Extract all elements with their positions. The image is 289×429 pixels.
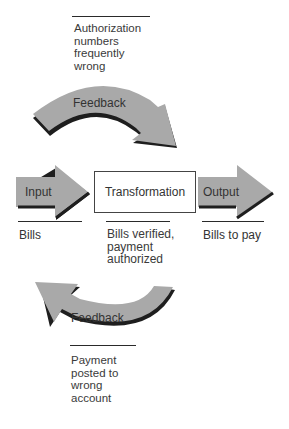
process-diagram-graphics (0, 0, 289, 429)
input-caption: Bills (19, 228, 41, 242)
output-label: Output (203, 185, 239, 199)
top-note-rule (72, 16, 150, 17)
bottom-note-rule (70, 345, 136, 346)
input-caption-rule (18, 221, 82, 222)
output-caption: Bills to pay (203, 228, 261, 242)
transformation-caption-rule (106, 221, 170, 222)
top-feedback-label: Feedback (73, 96, 126, 110)
top-feedback-note: Authorization numbers frequently wrong (74, 22, 141, 72)
bottom-feedback-note: Payment posted to wrong account (71, 354, 118, 404)
output-caption-rule (202, 221, 264, 222)
bottom-feedback-label: Feedback (71, 311, 124, 325)
input-label: Input (25, 185, 52, 199)
transformation-box: Transformation (94, 171, 196, 213)
transformation-caption: Bills verified, payment authorized (107, 228, 174, 266)
transformation-label: Transformation (105, 185, 185, 199)
